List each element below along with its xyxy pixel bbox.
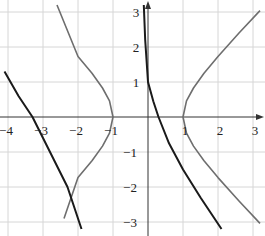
gray-hyperbola-branch [57, 5, 113, 219]
y-tick-label: 1 [133, 75, 140, 90]
y-axis-arrow-icon [145, 1, 151, 9]
y-tick-label: 2 [133, 40, 140, 55]
y-tick-label: −3 [123, 215, 137, 230]
chart-canvas: −4−3−2−1123321−1−2−3 [0, 0, 265, 236]
x-tick-label: −2 [69, 123, 83, 138]
x-tick-label: −3 [34, 123, 48, 138]
x-tick-label: 2 [217, 123, 224, 138]
x-tick-label: −1 [104, 123, 118, 138]
x-axis-arrow-icon [256, 114, 264, 120]
x-tick-label: 3 [252, 123, 259, 138]
x-tick-label: −4 [0, 123, 13, 138]
y-tick-label: −2 [123, 180, 137, 195]
grid [0, 0, 265, 236]
x-tick-label: 1 [182, 123, 189, 138]
axes [0, 1, 264, 236]
y-tick-label: −1 [123, 145, 137, 160]
y-tick-label: 3 [133, 5, 140, 20]
